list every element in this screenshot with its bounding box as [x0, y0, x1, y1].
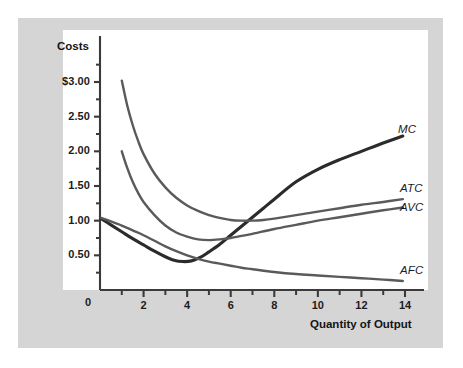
x-tick-label: 4	[175, 299, 199, 311]
axes-group	[94, 36, 424, 297]
y-tick-label: $3.00	[38, 75, 90, 87]
x-tick-label: 14	[393, 299, 417, 311]
y-tick-label: 1.50	[38, 179, 90, 191]
y-tick-label: 1.00	[38, 214, 90, 226]
curves-group	[101, 81, 403, 281]
x-tick-label: 10	[306, 299, 330, 311]
figure-root: Costs Quantity of Output 00.501.001.502.…	[0, 0, 463, 368]
y-tick-label: 0.50	[38, 248, 90, 260]
curve-avc	[122, 151, 403, 240]
y-tick-label: 0	[82, 296, 94, 308]
x-tick-label: 12	[349, 299, 373, 311]
y-tick-label: 2.50	[38, 110, 90, 122]
curve-label-avc: AVC	[400, 201, 424, 213]
curve-label-atc: ATC	[400, 182, 423, 194]
x-tick-label: 8	[262, 299, 286, 311]
curve-mc	[101, 136, 403, 262]
x-tick-label: 6	[219, 299, 243, 311]
curve-label-mc: MC	[398, 123, 416, 135]
x-tick-label: 2	[132, 299, 156, 311]
y-tick-label: 2.00	[38, 144, 90, 156]
curve-label-afc: AFC	[400, 264, 424, 276]
curve-afc	[101, 218, 403, 281]
